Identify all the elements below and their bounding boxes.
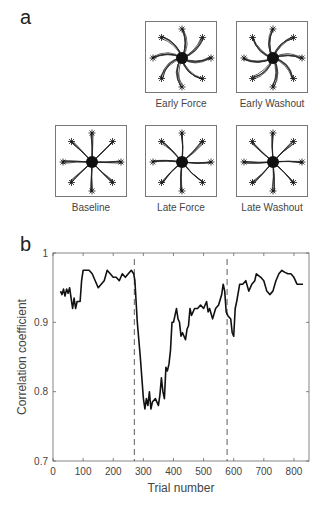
x-tick-label: 700: [255, 466, 272, 477]
y-axis-label: Correlation coefficient: [15, 298, 29, 415]
x-tick-label: 500: [195, 466, 212, 477]
x-tick-label: 100: [75, 466, 92, 477]
x-tick-label: 0: [50, 466, 56, 477]
plot-frame: [53, 253, 309, 461]
y-tick-label: 0.8: [34, 386, 48, 397]
x-tick-label: 800: [286, 466, 303, 477]
correlation-chart: 01002003004005006007008000.70.80.91Trial…: [0, 0, 335, 508]
x-axis-label: Trial number: [148, 481, 215, 495]
y-tick-label: 0.7: [34, 456, 48, 467]
y-tick-label: 1: [42, 248, 48, 259]
x-tick-label: 400: [165, 466, 182, 477]
x-tick-label: 300: [135, 466, 152, 477]
x-tick-label: 200: [105, 466, 122, 477]
y-tick-label: 0.9: [34, 317, 48, 328]
data-line: [61, 270, 304, 409]
x-tick-label: 600: [225, 466, 242, 477]
